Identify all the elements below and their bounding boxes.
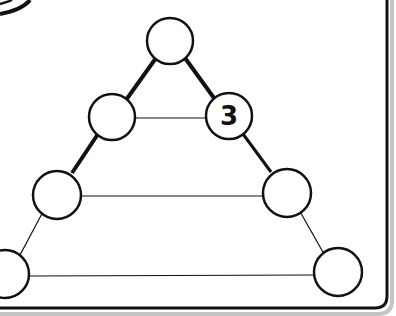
edge-top-to-r2-right (185, 58, 214, 98)
connector-row-4 (30, 275, 314, 276)
partial-oval-inner (0, 0, 12, 4)
node-r2-left[interactable] (89, 94, 135, 140)
node-r2-right[interactable]: 3 (206, 93, 252, 139)
edge-r2-left-to-r3-left (72, 134, 98, 173)
node-r4-right[interactable] (314, 248, 362, 296)
node-r3-right[interactable] (263, 169, 311, 217)
node-r4-left[interactable] (0, 250, 29, 298)
edge-r2-right-to-r3-right (243, 134, 271, 172)
edge-r3-left-to-r4-left (20, 208, 45, 255)
edge-top-to-r2-left (126, 58, 156, 100)
node-r3-left[interactable] (33, 171, 81, 219)
edge-r3-right-to-r4-right (298, 208, 324, 254)
number-pyramid-diagram: 3 (0, 0, 396, 316)
node-value: 3 (220, 101, 238, 131)
node-top[interactable] (147, 18, 193, 64)
